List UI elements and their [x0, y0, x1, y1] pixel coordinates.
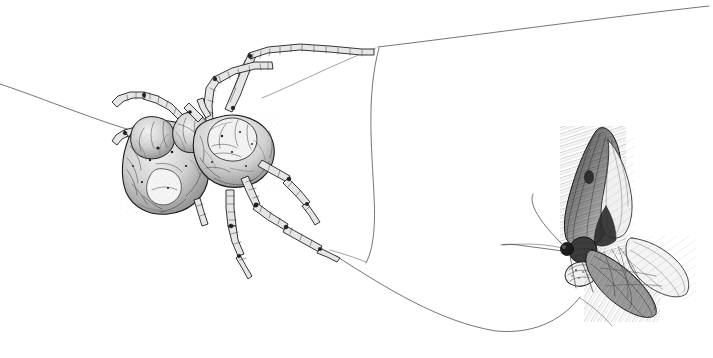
scene-drawing [0, 0, 713, 358]
moth-wing-spot [584, 170, 594, 184]
moth-hindwing-right [622, 236, 696, 300]
cephalothorax-stipple [196, 112, 280, 192]
spider-cephalothorax [193, 112, 280, 192]
moth-hindwing-right-hatch [622, 236, 696, 300]
illustration-canvas: Spider and Moth pen-and-ink drawing orb-… [0, 0, 713, 358]
